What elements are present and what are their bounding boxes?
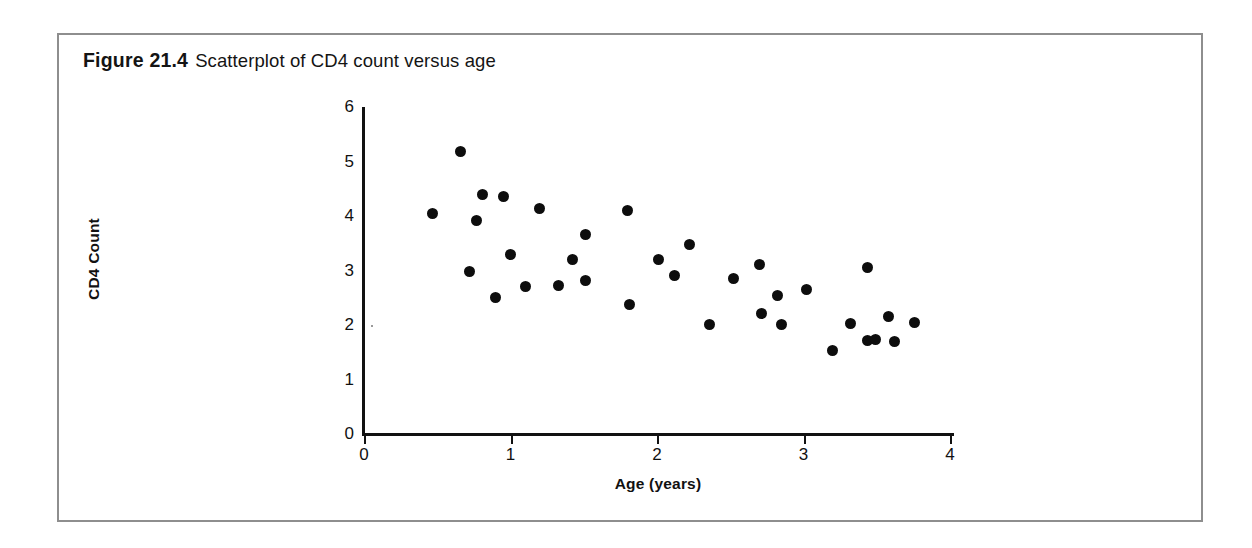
data-point <box>754 259 765 270</box>
x-axis-title: Age (years) <box>362 475 954 493</box>
x-tick-label: 1 <box>499 445 523 465</box>
x-tick-mark <box>511 433 513 444</box>
y-axis-title: CD4 Count <box>85 199 103 319</box>
scatter-plot: 0123456 01234 CD4 Count Age (years) <box>59 35 1205 524</box>
data-point <box>684 239 695 250</box>
data-point <box>776 319 787 330</box>
data-point <box>567 254 578 265</box>
data-point <box>772 290 783 301</box>
x-axis-ticks: 01234 <box>59 35 1205 524</box>
data-point <box>455 146 466 157</box>
data-point <box>624 299 635 310</box>
data-point <box>464 266 475 277</box>
figure-frame: Figure 21.4Scatterplot of CD4 count vers… <box>57 33 1203 522</box>
data-point <box>669 270 680 281</box>
data-point <box>870 334 881 345</box>
data-point <box>553 280 564 291</box>
data-point <box>505 249 516 260</box>
data-point <box>580 275 591 286</box>
data-point <box>580 229 591 240</box>
x-tick-label: 4 <box>938 445 962 465</box>
data-point <box>653 254 664 265</box>
x-tick-mark <box>364 433 366 444</box>
x-tick-mark <box>950 433 952 444</box>
x-tick-label: 3 <box>792 445 816 465</box>
data-point <box>728 273 739 284</box>
data-point <box>801 284 812 295</box>
x-tick-label: 0 <box>352 445 376 465</box>
x-tick-label: 2 <box>645 445 669 465</box>
x-tick-mark <box>657 433 659 444</box>
x-tick-mark <box>804 433 806 444</box>
data-point <box>756 308 767 319</box>
data-point <box>490 292 501 303</box>
data-point <box>520 281 531 292</box>
